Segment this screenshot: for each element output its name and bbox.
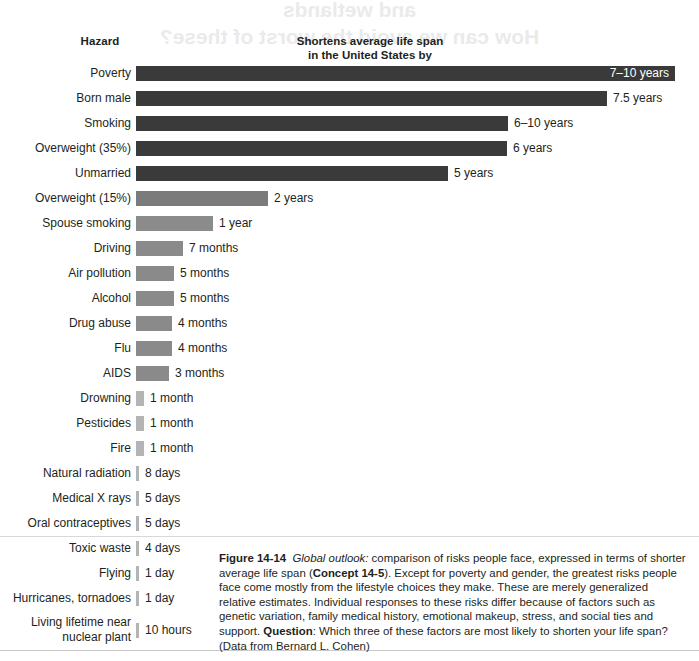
chart-row: Overweight (35%)6 years — [0, 136, 699, 161]
caption-figure-number: Figure 14-14 — [219, 552, 286, 564]
divider-rule-middle — [0, 536, 699, 537]
bar-container: 7 months — [136, 241, 238, 256]
bar-value-label: 6 years — [513, 141, 552, 156]
bar-value-label: 3 months — [175, 366, 224, 381]
bar-container: 7.5 years — [136, 91, 662, 106]
hazard-label: Flying — [0, 561, 131, 586]
bar-value-label: 5 years — [454, 166, 493, 181]
bar-box — [136, 191, 268, 209]
chart-row: Natural radiation8 days — [0, 461, 699, 486]
bar-container: 6 years — [136, 141, 552, 156]
bar-container: 5 years — [136, 166, 493, 181]
chart-row: Drowning1 month — [0, 386, 699, 411]
hazard-label: Born male — [0, 86, 131, 111]
hazard-label: Unmarried — [0, 161, 131, 186]
bar-container: 6–10 years — [136, 116, 573, 131]
hazard-label: AIDS — [0, 361, 131, 386]
bar-box — [136, 541, 139, 559]
hazard-label: Alcohol — [0, 286, 131, 311]
hazard-label: Living lifetime near nuclear plant — [0, 615, 131, 645]
hazard-bar — [136, 116, 508, 131]
chart-row: Pesticides1 month — [0, 411, 699, 436]
bar-value-label: 1 month — [150, 416, 193, 431]
chart-row: Drug abuse4 months — [0, 311, 699, 336]
chart-row: Unmarried5 years — [0, 161, 699, 186]
bar-box — [136, 591, 139, 609]
bar-value-label: 4 months — [178, 341, 227, 356]
caption-lead-italic: Global outlook: — [289, 552, 368, 564]
bar-value-label: 4 days — [145, 541, 180, 556]
bar-box — [136, 466, 139, 484]
column-header-metric: Shortens average life span in the United… — [200, 34, 540, 62]
hazard-bar — [136, 266, 174, 281]
chart-row: Alcohol5 months — [0, 286, 699, 311]
hazard-label: Pesticides — [0, 411, 131, 436]
bar-container: 1 day — [136, 591, 174, 606]
hazard-bar — [136, 341, 172, 356]
bar-box — [136, 566, 139, 584]
hazard-bar — [136, 91, 607, 106]
hazard-bar — [136, 191, 268, 206]
bar-box — [136, 441, 144, 459]
bar-container: 2 years — [136, 191, 313, 206]
hazard-bar — [136, 66, 675, 81]
bar-value-label: 1 day — [145, 591, 174, 606]
hazard-bar — [136, 623, 139, 638]
bar-value-label: 6–10 years — [514, 116, 573, 131]
bar-container: 8 days — [136, 466, 180, 481]
bar-container: 1 day — [136, 566, 174, 581]
bar-container: 4 months — [136, 316, 227, 331]
hazard-label: Toxic waste — [0, 536, 131, 561]
bar-container: 1 month — [136, 416, 193, 431]
hazard-label: Driving — [0, 236, 131, 261]
bar-value-label: 7 months — [189, 241, 238, 256]
chart-row: Flu4 months — [0, 336, 699, 361]
bar-value-label: 5 months — [180, 291, 229, 306]
chart-row: Fire1 month — [0, 436, 699, 461]
hazard-bar — [136, 416, 144, 431]
chart-row: AIDS3 months — [0, 361, 699, 386]
hazard-bar — [136, 541, 139, 556]
bar-box — [136, 366, 169, 384]
hazard-bar — [136, 316, 172, 331]
bar-value-label: 7.5 years — [613, 91, 662, 106]
bar-box — [136, 241, 183, 259]
hazard-label: Overweight (35%) — [0, 136, 131, 161]
hazard-label: Spouse smoking — [0, 211, 131, 236]
bar-box — [136, 216, 213, 234]
bar-value-label: 1 month — [150, 391, 193, 406]
hazard-label: Air pollution — [0, 261, 131, 286]
bar-container: 4 months — [136, 341, 227, 356]
bar-value-label: 8 days — [145, 466, 180, 481]
bar-value-label: 7–10 years — [610, 66, 669, 81]
bar-box — [136, 516, 139, 534]
bar-box: 7–10 years — [136, 66, 675, 84]
hazard-bar — [136, 166, 448, 181]
hazard-label: Poverty — [0, 61, 131, 86]
hazard-label: Fire — [0, 436, 131, 461]
hazard-bar — [136, 516, 139, 531]
hazard-label: Overweight (15%) — [0, 186, 131, 211]
hazard-bar — [136, 216, 213, 231]
hazard-bar — [136, 591, 139, 606]
hazard-bar — [136, 291, 174, 306]
hazard-bar — [136, 241, 183, 256]
figure-14-14: Hazard Shortens average life span in the… — [0, 0, 699, 661]
bar-value-label: 5 days — [145, 516, 180, 531]
bar-box — [136, 91, 607, 109]
bar-value-label: 5 months — [180, 266, 229, 281]
bar-box — [136, 316, 172, 334]
bar-box — [136, 416, 144, 434]
bar-container: 7–10 years — [136, 66, 675, 81]
bar-container: 1 month — [136, 441, 193, 456]
hazard-label: Natural radiation — [0, 461, 131, 486]
chart-row: Medical X rays5 days — [0, 486, 699, 511]
bar-value-label: 10 hours — [145, 623, 192, 638]
bar-box — [136, 623, 139, 641]
bar-container: 5 months — [136, 291, 229, 306]
bar-container: 5 days — [136, 491, 180, 506]
hazard-label: Smoking — [0, 111, 131, 136]
bar-box — [136, 491, 139, 509]
hazard-bar — [136, 366, 169, 381]
caption-question-label: Question — [263, 625, 312, 637]
